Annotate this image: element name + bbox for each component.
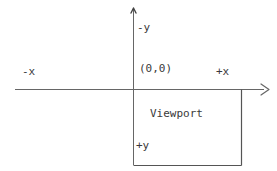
axis-label-negative-y: -y — [137, 22, 150, 34]
viewport-label: Viewport — [150, 108, 203, 120]
axis-label-positive-x: +x — [216, 66, 229, 78]
coordinate-system-diagram: -y -x (0,0) +x Viewport +y — [0, 0, 277, 171]
axis-label-positive-y: +y — [136, 140, 149, 152]
origin-label: (0,0) — [139, 63, 172, 75]
axis-label-negative-x: -x — [22, 66, 35, 78]
